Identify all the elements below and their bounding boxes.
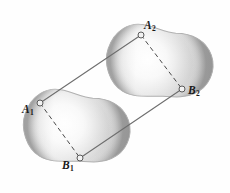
point-label-a1-letter: A (22, 103, 30, 115)
point-label-b1-letter: B (62, 159, 70, 171)
point-label-a2-subscript: 2 (152, 24, 156, 33)
point-label-b2: B2 (188, 85, 200, 98)
point-marker-b1 (77, 155, 83, 161)
point-label-b1-subscript: 1 (70, 164, 74, 173)
point-label-a2-letter: A (144, 19, 152, 31)
point-label-b2-letter: B (188, 84, 196, 96)
figure-container: A1 B1 A2 B2 (0, 0, 230, 193)
point-label-b1: B1 (62, 160, 74, 173)
point-label-a2: A2 (144, 20, 156, 33)
point-label-a1: A1 (22, 104, 34, 117)
point-marker-a2 (138, 32, 144, 38)
point-label-b2-subscript: 2 (196, 89, 200, 98)
point-label-a1-subscript: 1 (30, 108, 34, 117)
point-marker-b2 (179, 86, 185, 92)
point-marker-a1 (37, 100, 43, 106)
